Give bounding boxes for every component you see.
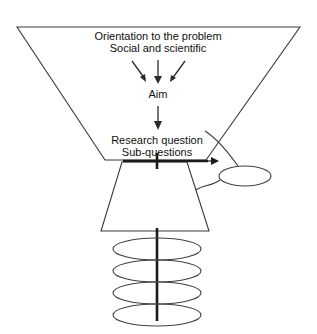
- orientation-label-line2: Social and scientific: [110, 42, 207, 54]
- research-funnel-diagram: Orientation to the problem Social and sc…: [0, 0, 317, 334]
- diagram-canvas: Orientation to the problem Social and sc…: [0, 0, 317, 334]
- research-question-label-line1: Research question: [111, 134, 203, 146]
- aim-label: Aim: [149, 88, 168, 100]
- curve-side-ellipse-to-trapezoid: [196, 180, 220, 190]
- horizontal-arrow-head: [211, 157, 219, 165]
- lower-trapezoid-shape: [101, 162, 209, 231]
- side-ellipse-shape: [219, 166, 271, 186]
- orientation-label-line1: Orientation to the problem: [94, 30, 221, 42]
